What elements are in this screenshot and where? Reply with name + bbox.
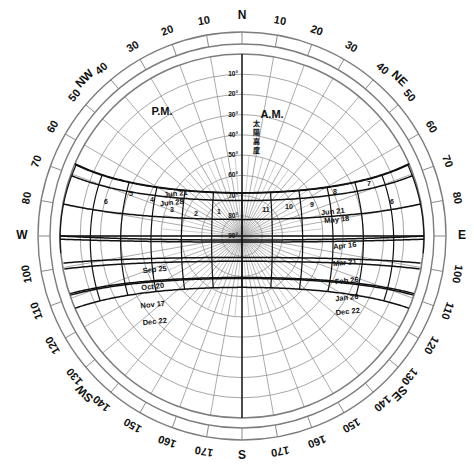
azimuth-tick-40	[365, 80, 373, 89]
altitude-label-50: 50°	[228, 151, 238, 158]
hour-label-pm-6: 6	[104, 198, 108, 205]
azimuth-label-120: 120	[422, 335, 442, 357]
cardinal-label-E: E	[458, 228, 466, 242]
altitude-label-90: 90°	[228, 232, 238, 239]
hour-label-am-10: 10	[285, 203, 293, 210]
azimuth-label-340: 20	[159, 22, 175, 37]
azimuth-tick-200	[172, 416, 176, 427]
azimuth-tick-350	[207, 35, 209, 47]
azimuth-label-240: 120	[42, 335, 62, 357]
azimuth-tick-300	[65, 134, 75, 140]
azimuth-tick-170	[275, 425, 277, 437]
azimuth-tick-250	[50, 302, 61, 306]
altitude-axis-caption-char-0: 太	[253, 119, 261, 128]
azimuth-label-210: 150	[122, 416, 144, 436]
date-label-west-5: Dec 22	[142, 316, 167, 327]
altitude-label-80: 80°	[228, 212, 238, 219]
altitude-label-20: 20°	[228, 90, 238, 97]
altitude-label-70: 70°	[228, 192, 238, 199]
azimuth-label-200: 160	[156, 433, 177, 451]
azimuth-tick-50	[389, 105, 398, 113]
azimuth-label-140: 140	[372, 393, 394, 414]
azimuth-tick-230	[86, 359, 95, 367]
azimuth-tick-290	[50, 166, 61, 170]
azimuth-tick-120	[408, 332, 418, 338]
azimuth-tick-280	[41, 201, 53, 203]
azimuth-label-190: 170	[194, 444, 214, 459]
hour-label-am-8: 8	[333, 188, 337, 195]
altitude-label-40: 40°	[228, 131, 238, 138]
azimuth-label-350: 10	[197, 13, 211, 27]
azimuth-tick-190	[207, 425, 209, 437]
azimuth-label-150: 150	[341, 416, 363, 436]
sun-path-svg: 1020304050607080100110120130140150160170…	[0, 0, 474, 472]
hour-label-pm-5: 5	[129, 190, 133, 197]
hour-label-am-7: 7	[367, 180, 371, 187]
azimuth-tick-220	[111, 383, 119, 392]
azimuth-tick-20	[308, 44, 312, 55]
date-label-east-1: May 18	[324, 214, 350, 226]
azimuth-tick-60	[408, 134, 418, 140]
altitude-axis-caption-char-3: 度	[253, 146, 261, 155]
altitude-label-10: 10°	[228, 70, 238, 77]
azimuth-label-280: 80	[19, 191, 33, 205]
azimuth-tick-80	[431, 201, 443, 203]
am-half-label: A.M.	[260, 108, 283, 120]
date-label-east-6: Dec 22	[335, 306, 360, 317]
altitude-axis-caption-char-2: 高	[253, 137, 260, 146]
azimuth-label-260: 100	[19, 264, 34, 284]
azimuth-label-80: 80	[451, 191, 465, 205]
azimuth-tick-100	[431, 269, 443, 271]
date-label-west-4: Nov 17	[140, 299, 165, 311]
azimuth-tick-150	[338, 402, 344, 412]
azimuth-tick-340	[172, 44, 176, 55]
azimuth-label-110: 110	[439, 301, 456, 322]
azimuth-tick-140	[365, 383, 373, 392]
hour-label-am-11: 11	[262, 206, 270, 213]
azimuth-tick-240	[65, 332, 75, 338]
azimuth-label-40: 40	[374, 60, 391, 77]
azimuth-tick-320	[111, 80, 119, 89]
azimuth-label-70: 70	[440, 153, 455, 169]
azimuth-label-10: 10	[273, 13, 287, 27]
azimuth-label-100: 100	[450, 264, 465, 284]
azimuth-label-320: 40	[93, 60, 110, 77]
azimuth-label-330: 30	[124, 38, 141, 55]
pm-half-label: P.M.	[151, 105, 172, 117]
azimuth-tick-110	[422, 302, 433, 306]
azimuth-tick-310	[86, 105, 95, 113]
hour-label-pm-2: 2	[194, 210, 198, 217]
azimuth-tick-130	[389, 359, 398, 367]
azimuth-label-50: 50	[401, 87, 418, 104]
azimuth-label-250: 110	[27, 301, 44, 322]
azimuth-tick-330	[140, 59, 146, 69]
azimuth-label-20: 20	[309, 22, 325, 37]
cardinal-label-NE: NE	[389, 68, 411, 90]
azimuth-label-160: 160	[306, 433, 327, 451]
date-label-west-2: Sep 25	[142, 264, 167, 275]
altitude-label-60: 60°	[228, 171, 238, 178]
cardinal-label-S: S	[238, 448, 246, 462]
altitude-axis-caption-char-1: 陽	[253, 128, 260, 137]
altitude-label-30: 30°	[228, 111, 238, 118]
azimuth-label-60: 60	[423, 118, 440, 135]
azimuth-label-300: 60	[44, 118, 61, 135]
azimuth-tick-160	[308, 416, 312, 427]
date-label-east-2: Apr 16	[333, 240, 357, 251]
azimuth-tick-260	[41, 269, 53, 271]
cardinal-label-N: N	[238, 8, 247, 22]
hour-label-am-9: 9	[310, 201, 314, 208]
hour-label-pm-4: 4	[150, 196, 154, 203]
azimuth-tick-210	[140, 402, 146, 412]
date-label-east-3: Mar 21	[332, 257, 357, 268]
azimuth-label-30: 30	[343, 38, 360, 55]
azimuth-tick-10	[275, 35, 277, 47]
azimuth-tick-30	[338, 59, 344, 69]
cardinal-label-W: W	[16, 228, 28, 242]
azimuth-label-170: 170	[270, 444, 290, 459]
hour-lines	[60, 54, 424, 418]
hour-label-pm-1: 1	[217, 208, 221, 215]
sun-path-diagram: 1020304050607080100110120130140150160170…	[0, 0, 474, 472]
hour-label-am-6: 6	[390, 198, 394, 205]
hour-label-pm-3: 3	[170, 206, 174, 213]
